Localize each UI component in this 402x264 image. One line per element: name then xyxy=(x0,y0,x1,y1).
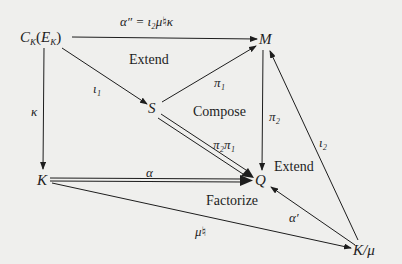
region-extend-top: Extend xyxy=(129,53,169,67)
label-alpha-prime: α′ xyxy=(289,211,299,224)
label-mu-natural: μ♮ xyxy=(195,225,206,238)
label-pi1: π₁ xyxy=(214,76,225,89)
label-alpha-double-prime: α″ = ι₂μ♮κ xyxy=(120,15,173,28)
label-iota2: ι₂ xyxy=(319,136,327,149)
region-factorize: Factorize xyxy=(206,194,258,208)
label-iota1: ι₁ xyxy=(93,82,101,95)
node-q: Q xyxy=(255,173,266,188)
ck-paren-close: ) xyxy=(56,29,61,45)
region-compose: Compose xyxy=(193,105,246,119)
arrow-alpha-double-prime xyxy=(72,37,257,39)
arrow-pi2pi1-line-a xyxy=(161,114,249,172)
label-kappa: κ xyxy=(31,105,37,118)
label-pi2pi1: π₂π₁ xyxy=(213,138,235,151)
region-extend-right: Extend xyxy=(274,160,314,174)
node-m: M xyxy=(259,32,272,47)
ck-main: C xyxy=(20,29,30,45)
arrow-alpha-prime xyxy=(271,187,355,245)
arrow-kappa xyxy=(43,48,44,169)
node-k-mod-mu: K/μ xyxy=(353,243,375,258)
node-k: K xyxy=(37,173,47,188)
arrow-pi1 xyxy=(162,46,256,102)
ck-inner: E xyxy=(41,29,50,45)
arrow-pi2 xyxy=(262,50,263,170)
arrow-alpha-line-b xyxy=(50,181,243,182)
node-ck-ek: CK(EK) xyxy=(20,30,61,47)
label-alpha: α xyxy=(146,166,153,179)
node-s: S xyxy=(148,101,156,116)
arrow-iota2 xyxy=(270,51,358,240)
label-pi2: π₂ xyxy=(269,110,280,123)
